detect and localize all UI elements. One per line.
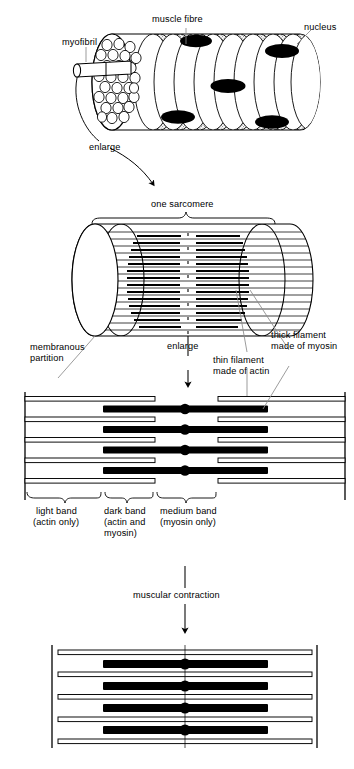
label-thin-filament-line1: thin filament (213, 355, 264, 366)
filaments-relaxed-drawing (25, 366, 345, 503)
label-membranous-partition-line2: partition (30, 353, 64, 364)
label-thick-filament-line1: thick filament (271, 330, 326, 341)
filaments-contracted-drawing (52, 645, 317, 748)
label-membranous-partition-line1: membranous (30, 342, 85, 353)
label-medium-band-line2: (myosin only) (160, 517, 216, 528)
label-thick-filament-line2: made of myosin (271, 341, 337, 352)
label-muscular-contraction: muscular contraction (133, 590, 220, 601)
label-enlarge-1: enlarge (89, 142, 120, 153)
muscle-diagram-figure: myofibril muscle fibre nucleus enlarge o… (0, 0, 354, 769)
label-light-band-line2: (actin only) (33, 517, 79, 528)
label-medium-band-line1: medium band (160, 506, 217, 517)
label-nucleus: nucleus (304, 22, 336, 33)
extracted-myofibril (73, 61, 131, 77)
label-enlarge-2: enlarge (167, 341, 198, 352)
sarcomere-brace (92, 212, 275, 224)
label-muscle-fibre: muscle fibre (152, 14, 203, 25)
sarcomere-drawing (58, 212, 330, 385)
label-dark-band-line1: dark band (104, 506, 146, 517)
band-braces (27, 492, 216, 503)
diagram-artwork (0, 0, 354, 769)
muscle-fibre-drawing (73, 28, 336, 184)
fibre-sheath-rings (134, 34, 336, 130)
label-dark-band-line2: (actin and (104, 517, 145, 528)
label-myofibril: myofibril (62, 37, 97, 48)
label-light-band-line1: light band (36, 506, 77, 517)
label-thin-filament-line2: made of actin (213, 366, 269, 377)
label-dark-band-line3: myosin) (104, 528, 137, 539)
label-one-sarcomere: one sarcomere (151, 199, 214, 210)
